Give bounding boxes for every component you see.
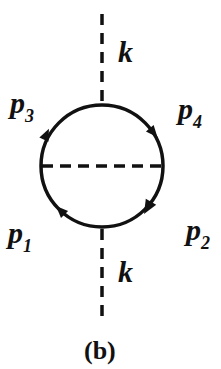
- feynman-diagram: [0, 0, 221, 369]
- label-k-top: k: [118, 37, 133, 67]
- label-p4: p4: [178, 94, 202, 124]
- label-k-bottom: k: [118, 257, 133, 287]
- label-p3: p3: [10, 88, 34, 118]
- label-p2: p2: [186, 215, 210, 245]
- figure-caption: (b): [84, 336, 116, 366]
- label-p1: p1: [8, 218, 32, 248]
